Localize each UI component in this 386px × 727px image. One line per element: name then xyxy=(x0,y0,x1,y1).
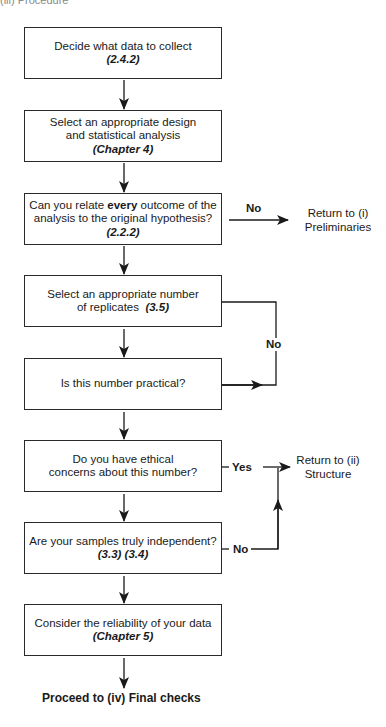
section-ref: (2.4.2) xyxy=(106,53,139,67)
step-reliability: Consider the reliability of your data (C… xyxy=(24,604,222,656)
step-text: Can you relate every outcome of the xyxy=(29,199,216,213)
step-text: concerns about this number? xyxy=(49,466,197,480)
step-text: Is this number practical? xyxy=(61,377,186,391)
step-select-design: Select an appropriate design and statist… xyxy=(24,110,222,162)
step-text: Select an appropriate design xyxy=(50,116,196,130)
exit-preliminaries: Return to (i) Preliminaries xyxy=(290,207,386,234)
edge-label-yes: Yes xyxy=(232,461,252,474)
section-ref: (3.3) (3.4) xyxy=(98,548,149,562)
step-text: Consider the reliability of your data xyxy=(34,617,211,631)
edge-label-no: No xyxy=(233,543,248,556)
section-heading-cut: (iii) Procedure xyxy=(0,0,68,6)
exit-final-checks: Proceed to (iv) Final checks xyxy=(42,691,201,705)
exit-structure: Return to (ii) Structure xyxy=(290,454,366,481)
step-text: Decide what data to collect xyxy=(54,40,191,54)
step-decide-data: Decide what data to collect (2.4.2) xyxy=(24,27,222,79)
step-text: of replicates (3.5) xyxy=(77,301,169,315)
step-text: Do you have ethical xyxy=(72,453,173,467)
step-select-replicates: Select an appropriate number of replicat… xyxy=(24,275,222,327)
step-text: Are your samples truly independent? xyxy=(29,535,216,549)
section-ref: (Chapter 4) xyxy=(93,143,154,157)
step-text: and statistical analysis xyxy=(66,129,180,143)
step-number-practical: Is this number practical? xyxy=(24,358,222,410)
step-samples-independent: Are your samples truly independent? (3.3… xyxy=(24,522,222,574)
edge-label-no: No xyxy=(266,338,281,351)
step-text: Select an appropriate number xyxy=(47,288,199,302)
step-relate-outcome: Can you relate every outcome of the anal… xyxy=(24,193,222,245)
step-ethical-concerns: Do you have ethical concerns about this … xyxy=(24,440,222,492)
edge-label-no: No xyxy=(246,202,261,215)
section-ref: (2.2.2) xyxy=(106,226,139,240)
step-text: analysis to the original hypothesis? xyxy=(34,212,212,226)
section-ref: (Chapter 5) xyxy=(93,630,154,644)
